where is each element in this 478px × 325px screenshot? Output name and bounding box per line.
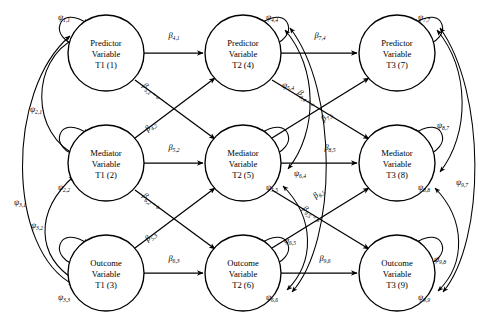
node-label-6-line1: Outcome bbox=[227, 258, 259, 268]
node-label-1-line2: Variable bbox=[92, 49, 121, 59]
node-label-4-line1: Predictor bbox=[227, 38, 259, 48]
psi-label-3-2: ψ3,2 bbox=[31, 221, 43, 231]
node-label-2-line1: Mediator bbox=[90, 148, 122, 158]
node-label-5-line2: Variable bbox=[229, 159, 258, 169]
beta-label-7-5: β7,5 bbox=[318, 109, 334, 125]
psi-label-3-1: ψ3,1 bbox=[14, 198, 26, 208]
node-label-7-line3: T3 (7) bbox=[386, 60, 408, 70]
psi-label-8-7: ψ8,7 bbox=[437, 121, 449, 131]
psi-label-2-2: ψ2,2 bbox=[58, 183, 70, 193]
psi-label-9-7: ψ9,7 bbox=[456, 178, 468, 188]
node-1[interactable]: PredictorVariableT1 (1) bbox=[68, 15, 144, 91]
node-label-2-line2: Variable bbox=[92, 159, 121, 169]
psi-label-4-4: ψ4,4 bbox=[266, 13, 278, 23]
node-label-3-line2: Variable bbox=[92, 269, 121, 279]
node-7[interactable]: PredictorVariableT3 (7) bbox=[359, 15, 435, 91]
node-label-9-line2: Variable bbox=[383, 269, 412, 279]
node-4[interactable]: PredictorVariableT2 (4) bbox=[205, 15, 281, 91]
psi-label-5-4: ψ5,4 bbox=[282, 81, 294, 91]
node-label-7-line1: Predictor bbox=[381, 38, 413, 48]
node-label-9-line3: T3 (9) bbox=[386, 280, 408, 290]
psi-label-7-7: ψ7,7 bbox=[418, 13, 430, 23]
node-label-4-line2: Variable bbox=[229, 49, 258, 59]
beta-label-4-1: β4,1 bbox=[167, 31, 179, 41]
beta-label-6-2: β6,2 = b bbox=[139, 190, 162, 212]
node-label-5-line3: T2 (5) bbox=[232, 170, 254, 180]
node-label-5-line1: Mediator bbox=[227, 148, 259, 158]
node-label-8-line1: Mediator bbox=[381, 148, 413, 158]
node-label-4-line3: T2 (4) bbox=[232, 60, 254, 70]
node-label-6-line3: T2 (6) bbox=[232, 280, 254, 290]
node-label-6-line2: Variable bbox=[229, 269, 258, 279]
beta-label-5-1: β5,1 = a bbox=[139, 80, 162, 102]
node-label-3-line3: T1 (3) bbox=[95, 280, 117, 290]
beta-label-7-4: β7,4 bbox=[313, 31, 325, 41]
latent-variable-nodes: PredictorVariableT1 (1)MediatorVariableT… bbox=[68, 15, 435, 311]
node-label-8-line2: Variable bbox=[383, 159, 412, 169]
beta-label-8-5: β8,5 bbox=[323, 143, 335, 153]
node-label-3-line1: Outcome bbox=[90, 258, 122, 268]
node-label-7-line2: Variable bbox=[383, 49, 412, 59]
psi-label-3-3: ψ3,3 bbox=[58, 293, 70, 303]
beta-label-5-3: β5,3 bbox=[142, 229, 158, 245]
beta-label-4-2: β4,2 bbox=[142, 119, 158, 135]
psi-arc-3-1 bbox=[22, 36, 74, 285]
psi-label-1-1: ψ1,1 bbox=[58, 13, 70, 23]
node-label-1-line3: T1 (1) bbox=[95, 60, 117, 70]
beta-label-6-3: β6,3 bbox=[167, 254, 179, 264]
node-2[interactable]: MediatorVariableT1 (2) bbox=[68, 125, 144, 201]
psi-label-2-1: ψ2,1 bbox=[30, 105, 42, 115]
sem-path-diagram: PredictorVariableT1 (1)MediatorVariableT… bbox=[0, 0, 478, 325]
psi-arc-6-4 bbox=[290, 28, 326, 292]
node-label-8-line3: T3 (8) bbox=[386, 170, 408, 180]
beta-label-9-6: β9,6 bbox=[318, 254, 330, 264]
psi-label-6-4: ψ6,4 bbox=[294, 169, 306, 179]
diagram-canvas: PredictorVariableT1 (1)MediatorVariableT… bbox=[0, 0, 478, 325]
node-label-2-line3: T1 (2) bbox=[95, 170, 117, 180]
node-label-1-line1: Predictor bbox=[90, 38, 122, 48]
psi-arc-8-7 bbox=[437, 30, 462, 172]
psi-label-6-5: ψ6,5 bbox=[284, 236, 296, 246]
node-3[interactable]: OutcomeVariableT1 (3) bbox=[68, 235, 144, 311]
beta-label-5-2: β5,2 bbox=[167, 143, 179, 153]
node-label-9-line1: Outcome bbox=[381, 258, 413, 268]
